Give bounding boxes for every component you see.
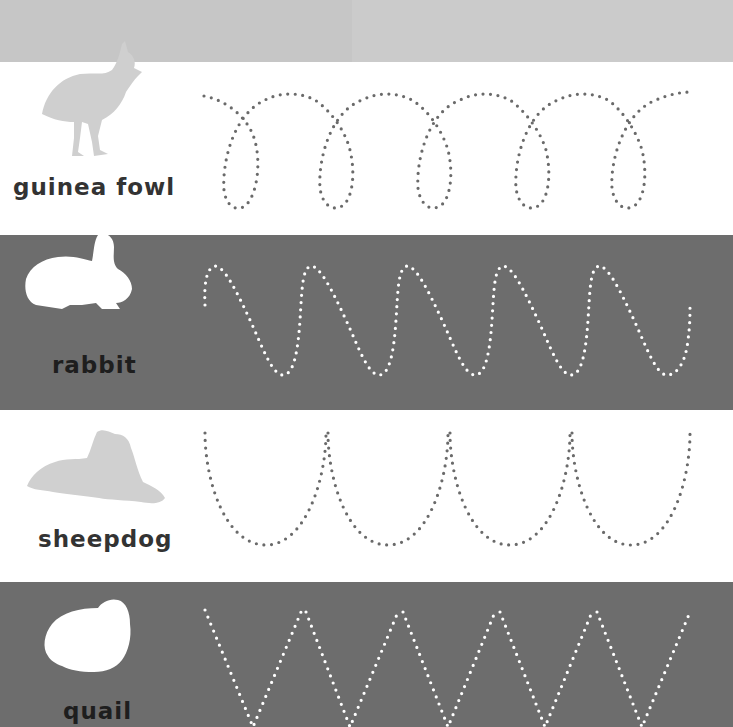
waves-trace <box>205 266 690 375</box>
zigzag-trace <box>205 610 690 727</box>
tracing-patterns <box>0 0 733 727</box>
u-curves-trace <box>205 433 690 545</box>
loops-trace <box>204 92 692 208</box>
